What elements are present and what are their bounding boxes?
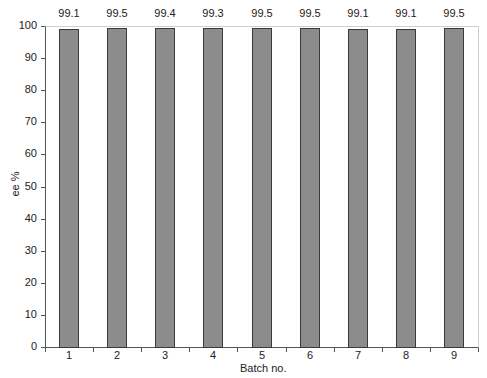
x-tick-label: 2	[102, 349, 132, 361]
x-tick-label: 7	[343, 349, 373, 361]
x-tick	[478, 348, 479, 352]
y-tick-label: 100	[7, 19, 37, 31]
y-tick	[41, 315, 45, 316]
bar-batch-2	[107, 28, 127, 348]
data-label: 99.1	[338, 7, 378, 19]
x-tick-label: 4	[198, 349, 228, 361]
x-tick	[45, 348, 46, 352]
x-tick	[382, 348, 383, 352]
data-label: 99.1	[49, 7, 89, 19]
bar-batch-4	[203, 28, 223, 348]
x-axis-title: Batch no.	[240, 362, 286, 374]
x-tick-label: 1	[54, 349, 84, 361]
bar-batch-3	[155, 28, 175, 348]
y-axis-title: ee %	[9, 171, 21, 196]
x-tick	[334, 348, 335, 352]
y-tick-label: 60	[7, 147, 37, 159]
y-tick	[41, 187, 45, 188]
y-tick	[41, 251, 45, 252]
x-tick-label: 5	[247, 349, 277, 361]
data-label: 99.4	[145, 7, 185, 19]
x-tick	[430, 348, 431, 352]
y-tick	[41, 26, 45, 27]
data-label: 99.5	[242, 7, 282, 19]
y-tick	[41, 283, 45, 284]
data-label: 99.1	[386, 7, 426, 19]
bar-batch-7	[348, 29, 368, 348]
y-tick	[41, 90, 45, 91]
y-tick-label: 0	[7, 340, 37, 352]
bar-chart: 010203040506070809010099.1199.5299.4399.…	[0, 0, 487, 378]
y-tick-label: 90	[7, 51, 37, 63]
bar-batch-8	[396, 29, 416, 348]
y-tick-label: 70	[7, 115, 37, 127]
x-tick-label: 9	[439, 349, 469, 361]
data-label: 99.5	[97, 7, 137, 19]
x-tick	[141, 348, 142, 352]
bar-batch-6	[300, 28, 320, 348]
bar-batch-9	[444, 28, 464, 348]
x-tick-label: 6	[295, 349, 325, 361]
y-tick-label: 20	[7, 276, 37, 288]
y-tick-label: 30	[7, 244, 37, 256]
y-tick	[41, 154, 45, 155]
x-tick	[189, 348, 190, 352]
y-tick	[41, 122, 45, 123]
bar-batch-5	[252, 28, 272, 348]
y-tick-label: 40	[7, 212, 37, 224]
data-label: 99.5	[434, 7, 474, 19]
x-tick	[286, 348, 287, 352]
x-tick-label: 8	[391, 349, 421, 361]
y-tick	[41, 58, 45, 59]
data-label: 99.5	[290, 7, 330, 19]
y-tick-label: 80	[7, 83, 37, 95]
y-tick-label: 10	[7, 308, 37, 320]
bar-batch-1	[59, 29, 79, 348]
x-tick	[237, 348, 238, 352]
y-tick	[41, 219, 45, 220]
data-label: 99.3	[193, 7, 233, 19]
x-tick	[93, 348, 94, 352]
x-tick-label: 3	[150, 349, 180, 361]
